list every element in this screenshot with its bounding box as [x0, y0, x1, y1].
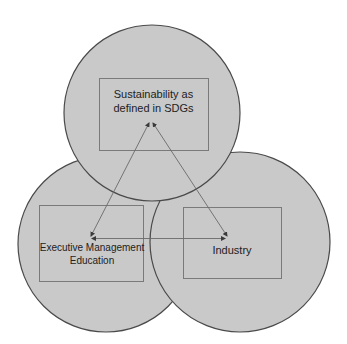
label-eme-line-1: Executive Management: [30, 242, 154, 255]
label-industry: Industry: [183, 244, 281, 258]
label-sustainability-line-2: defined in SDGs: [99, 102, 208, 116]
label-industry-line-1: Industry: [183, 244, 281, 258]
label-executive-management-education: Executive Management Education: [30, 242, 154, 267]
label-sustainability-line-1: Sustainability as: [99, 88, 208, 102]
label-sustainability: Sustainability as defined in SDGs: [99, 88, 208, 116]
label-eme-line-2: Education: [30, 255, 154, 268]
diagram-canvas: [0, 0, 347, 344]
